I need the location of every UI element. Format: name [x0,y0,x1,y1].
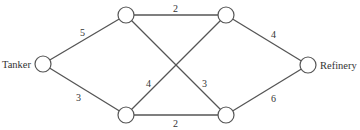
node-top-left [118,7,134,23]
edge-tr-refinery [226,15,308,65]
weight-tl-br: 3 [202,78,207,89]
weight-bl-tr: 4 [146,78,151,89]
node-refinery [300,57,316,73]
weight-br-refinery: 6 [271,93,276,104]
weight-tl-tr: 2 [173,3,178,14]
edge-tanker-tl [43,15,126,64]
weight-tanker-tl: 5 [80,27,85,38]
node-bottom-left [118,107,134,123]
node-top-right [218,7,234,23]
edge-tanker-bl [43,64,126,115]
weight-tr-refinery: 4 [271,29,276,40]
label-tanker: Tanker [2,59,32,70]
network-diagram: 5 3 2 2 4 3 4 6 Tanker Refinery [0,0,360,130]
label-refinery: Refinery [320,60,357,71]
edge-br-refinery [226,65,308,115]
weight-bl-br: 2 [173,118,178,129]
weight-tanker-bl: 3 [76,92,81,103]
node-tanker [35,56,51,72]
node-bottom-right [218,107,234,123]
